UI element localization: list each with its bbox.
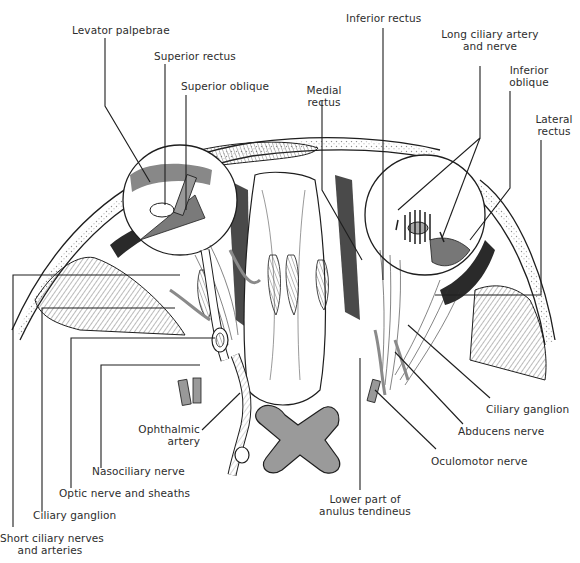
anatomy-figure: Levator palpebrae Superior rectus Superi… xyxy=(0,0,580,563)
label-medial-rectus-line2: rectus xyxy=(304,96,344,108)
label-superior-rectus: Superior rectus xyxy=(154,50,236,62)
label-ciliary-ganglion-right: Ciliary ganglion xyxy=(486,403,569,415)
label-lower-anulus: Lower part of anulus tendineus xyxy=(315,493,415,517)
label-short-ciliary-line2: and arteries xyxy=(0,544,100,556)
orbit-illustration xyxy=(0,0,580,563)
label-short-ciliary: Short ciliary nerves and arteries xyxy=(0,532,100,556)
label-ophthalmic-artery-line2: artery xyxy=(130,435,200,447)
label-abducens-nerve: Abducens nerve xyxy=(458,425,544,437)
label-lower-anulus-line1: Lower part of xyxy=(315,493,415,505)
label-lateral-rectus-line1: Lateral xyxy=(531,113,577,125)
label-long-ciliary-line1: Long ciliary artery xyxy=(435,28,545,40)
label-optic-nerve: Optic nerve and sheaths xyxy=(59,487,190,499)
label-ciliary-ganglion-left: Ciliary ganglion xyxy=(33,509,116,521)
label-lower-anulus-line2: anulus tendineus xyxy=(315,505,415,517)
label-inferior-oblique: Inferior oblique xyxy=(506,64,552,88)
label-inferior-oblique-line1: Inferior xyxy=(506,64,552,76)
label-long-ciliary-line2: and nerve xyxy=(435,40,545,52)
label-superior-oblique: Superior oblique xyxy=(181,80,269,92)
label-medial-rectus: Medial rectus xyxy=(304,84,344,108)
left-eyeball xyxy=(123,145,237,255)
label-lateral-rectus: Lateral rectus xyxy=(531,113,577,137)
label-inferior-rectus: Inferior rectus xyxy=(346,12,421,24)
label-ophthalmic-artery: Ophthalmic artery xyxy=(130,423,200,447)
label-medial-rectus-line1: Medial xyxy=(304,84,344,96)
label-ophthalmic-artery-line1: Ophthalmic xyxy=(130,423,200,435)
label-short-ciliary-line1: Short ciliary nerves xyxy=(0,532,100,544)
label-oculomotor-nerve: Oculomotor nerve xyxy=(431,455,528,467)
optic-chiasm xyxy=(256,405,340,473)
label-inferior-oblique-line2: oblique xyxy=(506,76,552,88)
label-long-ciliary: Long ciliary artery and nerve xyxy=(435,28,545,52)
label-levator-palpebrae: Levator palpebrae xyxy=(72,24,170,36)
label-lateral-rectus-line2: rectus xyxy=(531,125,577,137)
label-nasociliary-nerve: Nasociliary nerve xyxy=(92,465,185,477)
